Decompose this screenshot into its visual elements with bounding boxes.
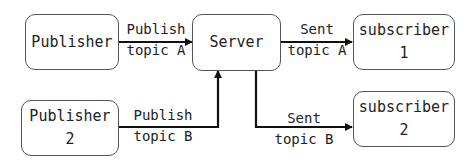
- subscriber-1-label: subscriber: [359, 19, 449, 42]
- subscriber-1-node: subscriber 1: [353, 14, 455, 70]
- edge-label-line1: Publish: [120, 19, 192, 40]
- publisher-1-node: Publisher: [25, 14, 119, 70]
- edge-label-server-sub1: Sent topic A: [283, 19, 351, 61]
- server-label: Server: [209, 31, 263, 54]
- edge-label-pub1-server: Publish topic A: [120, 19, 192, 61]
- edge-label-line2: topic B: [262, 129, 346, 150]
- server-node: Server: [192, 14, 281, 71]
- subscriber-2-number: 2: [399, 119, 408, 142]
- edge-label-line2: topic A: [120, 40, 192, 61]
- subscriber-2-node: subscriber 2: [353, 91, 455, 147]
- edge-label-line2: topic B: [128, 126, 198, 147]
- publisher-2-node: Publisher 2: [21, 100, 119, 156]
- edge-label-line1: Publish: [128, 105, 198, 126]
- edge-label-line2: topic A: [283, 40, 351, 61]
- subscriber-2-label: subscriber: [359, 96, 449, 119]
- edge-label-pub2-server: Publish topic B: [128, 105, 198, 147]
- publisher-2-label: Publisher: [29, 105, 110, 128]
- edge-label-line1: Sent: [262, 108, 346, 129]
- publisher-2-number: 2: [65, 128, 74, 151]
- publisher-1-label: Publisher: [31, 31, 112, 54]
- subscriber-1-number: 1: [399, 42, 408, 65]
- edge-label-line1: Sent: [283, 19, 351, 40]
- edge-label-server-sub2: Sent topic B: [262, 108, 346, 150]
